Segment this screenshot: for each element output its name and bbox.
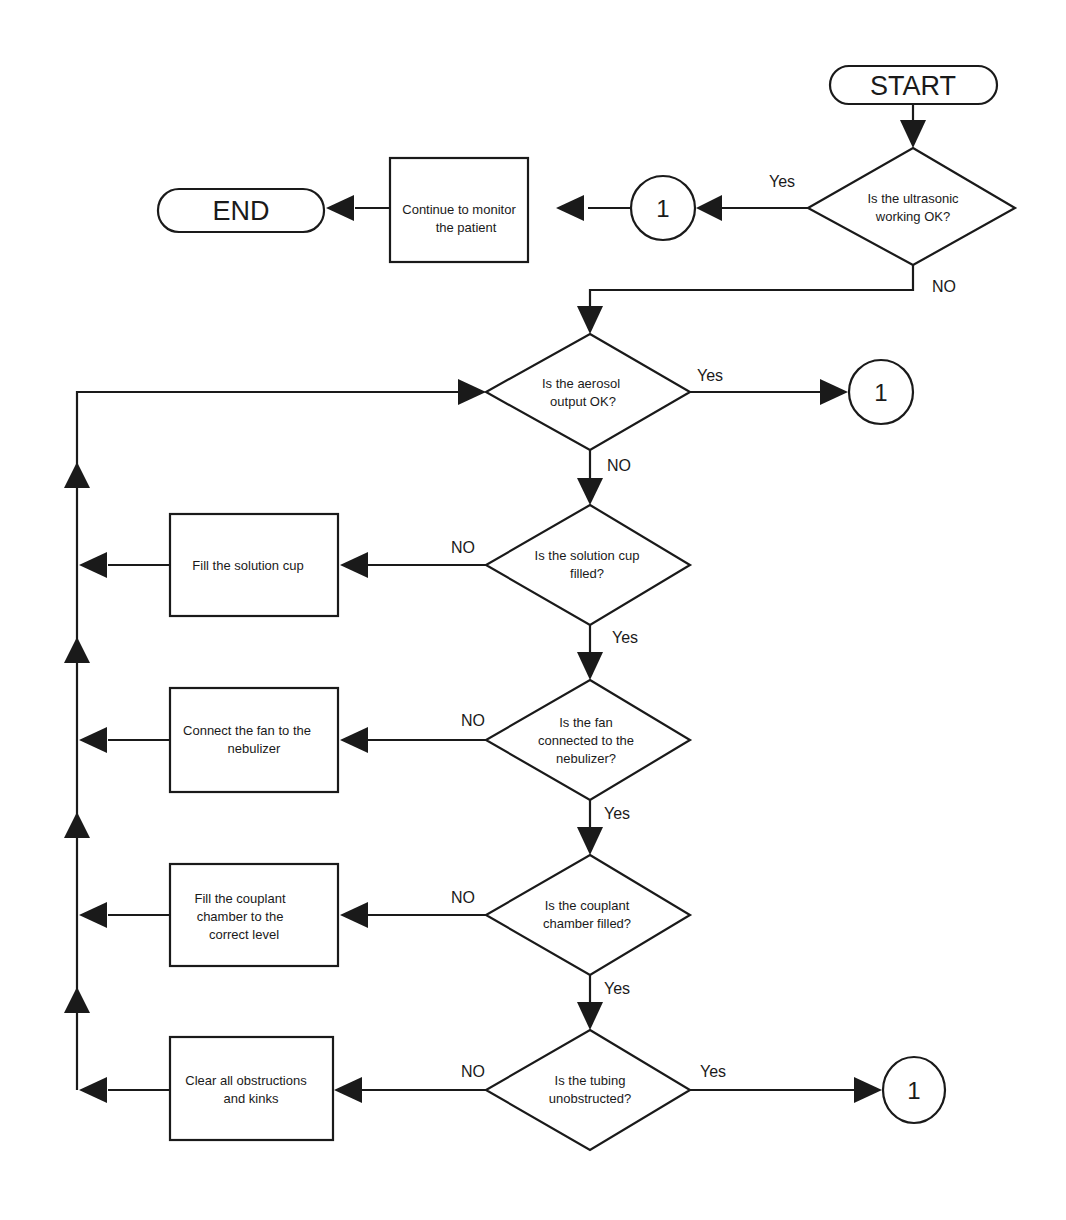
arrow-left-icon — [340, 902, 368, 928]
decision-solution-cup-filled: Is the solution cup filled? NO Yes — [451, 505, 690, 646]
yes-label: Yes — [700, 1063, 726, 1080]
process-connect-fan: Connect the fan to the nebulizer — [170, 688, 338, 792]
no-label: NO — [451, 539, 475, 556]
connector-1-mid: 1 — [849, 360, 913, 424]
arrow-down-icon — [577, 652, 603, 680]
arrow-left-icon — [340, 552, 368, 578]
arrow-left-icon — [79, 902, 107, 928]
svg-text:filled?: filled? — [570, 566, 604, 581]
svg-text:connected to the: connected to the — [538, 733, 634, 748]
svg-text:nebulizer: nebulizer — [228, 741, 281, 756]
arrow-right-icon — [820, 379, 848, 405]
svg-text:Continue to monitor: Continue to monitor — [402, 202, 516, 217]
svg-text:1: 1 — [874, 379, 887, 406]
connector-1-bottom: 1 — [883, 1057, 945, 1123]
arrow-down-icon — [577, 1002, 603, 1030]
arrow-up-icon — [64, 812, 90, 838]
decision-aerosol-output: Is the aerosol output OK? Yes NO — [486, 334, 723, 474]
svg-text:chamber to the: chamber to the — [197, 909, 284, 924]
svg-text:Is the solution cup: Is the solution cup — [535, 548, 640, 563]
arrow-up-icon — [64, 637, 90, 663]
svg-text:output OK?: output OK? — [550, 394, 616, 409]
arrow-up-icon — [64, 462, 90, 488]
arrow-left-icon — [326, 195, 354, 221]
decision-fan-connected: Is the fan connected to the nebulizer? N… — [461, 680, 690, 822]
end-label: END — [212, 196, 269, 226]
process-clear-obstructions: Clear all obstructions and kinks — [170, 1037, 333, 1140]
process-fill-solution-cup: Fill the solution cup — [170, 514, 338, 616]
yes-label: Yes — [604, 980, 630, 997]
arrow-left-icon — [79, 1077, 107, 1103]
svg-text:1: 1 — [907, 1077, 920, 1104]
yes-label: Yes — [697, 367, 723, 384]
svg-text:Clear all obstructions: Clear all obstructions — [185, 1073, 307, 1088]
svg-text:Is the fan: Is the fan — [559, 715, 612, 730]
yes-label: Yes — [612, 629, 638, 646]
svg-text:Fill the solution cup: Fill the solution cup — [192, 558, 303, 573]
svg-text:1: 1 — [656, 195, 669, 222]
svg-text:Is the couplant: Is the couplant — [545, 898, 630, 913]
arrow-down-icon — [577, 478, 603, 505]
end-terminal: END — [158, 189, 324, 232]
svg-text:Is the ultrasonic: Is the ultrasonic — [867, 191, 959, 206]
start-terminal: START — [830, 66, 997, 104]
no-label: NO — [932, 278, 956, 295]
process-fill-couplant: Fill the couplant chamber to the correct… — [170, 864, 338, 966]
start-label: START — [870, 71, 956, 101]
arrow-left-icon — [79, 552, 107, 578]
svg-text:nebulizer?: nebulizer? — [556, 751, 616, 766]
svg-text:working OK?: working OK? — [875, 209, 950, 224]
svg-text:chamber filled?: chamber filled? — [543, 916, 631, 931]
arrow-right-icon — [854, 1077, 882, 1103]
yes-label: Yes — [769, 173, 795, 190]
svg-text:unobstructed?: unobstructed? — [549, 1091, 631, 1106]
decision-tubing-unobstructed: Is the tubing unobstructed? NO Yes — [461, 1030, 726, 1150]
arrow-up-icon — [64, 987, 90, 1013]
arrow-down-icon — [900, 120, 926, 148]
process-continue-monitor: Continue to monitor the patient — [390, 158, 528, 262]
no-label: NO — [607, 457, 631, 474]
arrow-left-icon — [696, 195, 722, 221]
connector-1-top: 1 — [631, 176, 695, 240]
svg-text:Fill the couplant: Fill the couplant — [194, 891, 285, 906]
svg-text:Is the tubing: Is the tubing — [555, 1073, 626, 1088]
arrow-left-icon — [334, 1077, 362, 1103]
yes-label: Yes — [604, 805, 630, 822]
arrow-left-icon — [79, 727, 107, 753]
no-label: NO — [451, 889, 475, 906]
svg-text:Connect the fan to the: Connect the fan to the — [183, 723, 311, 738]
arrow-down-icon — [577, 306, 603, 334]
arrow-down-icon — [577, 827, 603, 855]
no-label: NO — [461, 712, 485, 729]
svg-text:correct level: correct level — [209, 927, 279, 942]
arrow-left-icon — [340, 727, 368, 753]
svg-text:the patient: the patient — [436, 220, 497, 235]
arrow-right-icon — [458, 379, 486, 405]
no-label: NO — [461, 1063, 485, 1080]
decision-ultrasonic-working: Is the ultrasonic working OK? Yes NO — [769, 148, 1015, 295]
svg-text:Is the aerosol: Is the aerosol — [542, 376, 620, 391]
arrow-left-icon — [556, 195, 584, 221]
svg-text:and kinks: and kinks — [224, 1091, 279, 1106]
decision-couplant-chamber-filled: Is the couplant chamber filled? NO Yes — [451, 855, 690, 997]
flowchart-canvas: START END Is the ultrasonic working OK? … — [0, 0, 1066, 1220]
